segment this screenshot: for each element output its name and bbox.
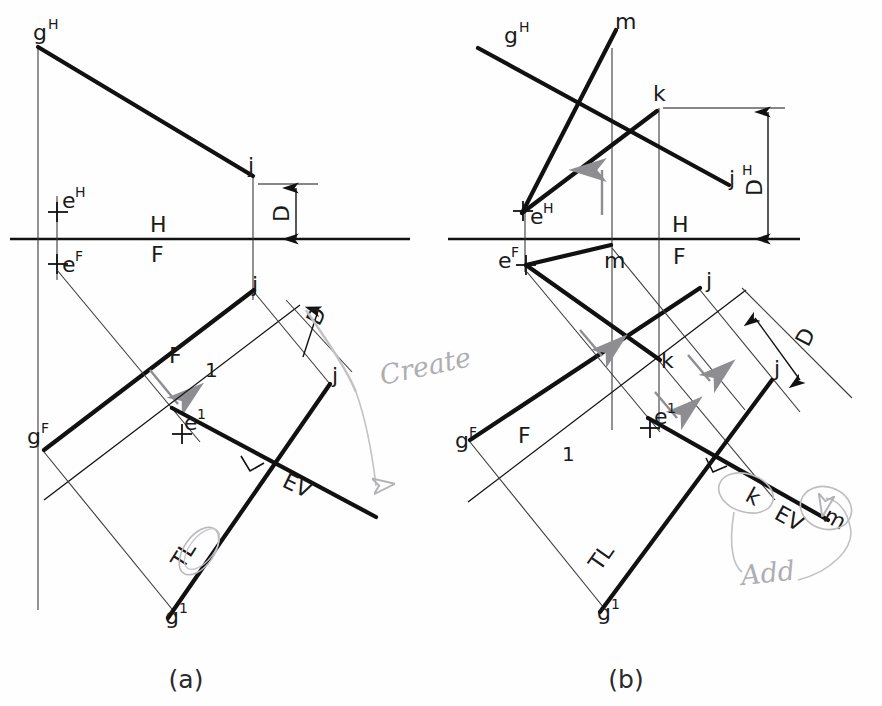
label-g1-b: g (597, 600, 611, 625)
label-eh-b: e (530, 204, 544, 229)
label-jf-b: j (705, 268, 712, 293)
drawing-sheet: g H j e H e F H F D j j g F g 1 e 1 F 1 … (0, 0, 882, 706)
label-jh-a: j (247, 153, 254, 178)
label-g1-sup-a: 1 (179, 600, 188, 616)
label-fold-h-b: H (672, 212, 689, 237)
label-gh-a: g (33, 20, 47, 45)
label-g1-a: g (165, 604, 179, 629)
label-gf-sup-b: F (469, 424, 477, 440)
label-fold-f1-bottom-a: 1 (205, 358, 218, 382)
label-gh-b: g (504, 23, 518, 48)
label-e1-b: e (654, 404, 668, 429)
caption-panel-a: (a) (169, 665, 204, 694)
label-mf-b: m (604, 248, 625, 273)
label-jh-sup-b: H (742, 162, 753, 178)
label-fold-f1-top-a: F (169, 343, 182, 368)
label-e1-sup-a: 1 (197, 406, 206, 422)
label-j1-a: j (331, 363, 338, 388)
label-g1-sup-b: 1 (611, 596, 620, 612)
label-eh-sup-a: H (75, 184, 86, 200)
label-gf-b: g (455, 428, 469, 453)
label-fold-h-a: H (150, 212, 167, 237)
label-j1-b: j (773, 356, 780, 381)
label-eh-sup-b: H (543, 200, 554, 216)
label-ef-sup-a: F (75, 248, 83, 264)
label-kf-b: k (661, 348, 674, 373)
label-e1-a: e (184, 410, 198, 435)
annotation-add-b: Add (736, 554, 796, 591)
label-gh-sup-a: H (48, 16, 59, 32)
label-gf-a: g (27, 424, 41, 449)
label-fold-f1-top-b: F (518, 423, 531, 448)
label-ef-sup-b: F (511, 244, 519, 260)
label-dim-d-top-b: D (742, 179, 767, 196)
label-kh-b: k (653, 81, 666, 106)
label-gh-sup-b: H (519, 19, 530, 35)
caption-panel-b: (b) (608, 665, 643, 694)
technical-drawing-svg: g H j e H e F H F D j j g F g 1 e 1 F 1 … (0, 0, 882, 706)
label-eh-a: e (62, 188, 76, 213)
label-ef-b: e (498, 248, 512, 273)
label-dim-d-top-a: D (269, 205, 294, 222)
label-mh-b: m (615, 9, 636, 34)
label-ef-a: e (62, 252, 76, 277)
label-jf-a: j (251, 272, 258, 297)
label-fold-f1-bottom-b: 1 (562, 442, 575, 466)
label-fold-f-b: F (673, 244, 686, 269)
label-gf-sup-a: F (41, 420, 49, 436)
label-fold-f-a: F (151, 242, 164, 267)
label-e1-sup-b: 1 (667, 400, 676, 416)
label-jh-b: j (728, 166, 735, 191)
